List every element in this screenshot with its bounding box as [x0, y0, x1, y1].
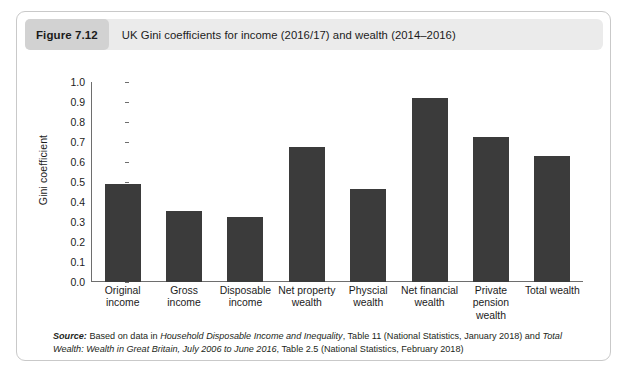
bar-slot	[399, 82, 460, 282]
plot-area	[92, 82, 583, 282]
bar-chart: Gini coefficient 0.00.10.20.30.40.50.60.…	[17, 64, 610, 329]
figure-number-badge: Figure 7.12	[25, 19, 109, 50]
source-italic1: Household Disposable Income and Inequali…	[160, 331, 343, 341]
bar-slot	[92, 82, 153, 282]
figure-header: Figure 7.12 UK Gini coefficients for inc…	[25, 19, 603, 50]
y-tick-label: 0.5	[70, 176, 85, 188]
bar[interactable]	[289, 147, 325, 282]
source-part3: , Table 2.5 (National Statistics, Februa…	[277, 344, 464, 354]
figure-card: Figure 7.12 UK Gini coefficients for inc…	[16, 11, 611, 361]
y-tick-label: 0.3	[70, 216, 85, 228]
x-tick-label: Total wealth	[516, 285, 589, 297]
bar[interactable]	[412, 98, 448, 282]
bar-slot	[460, 82, 521, 282]
bar[interactable]	[105, 184, 141, 282]
y-tick-label: 0.4	[70, 196, 85, 208]
bar[interactable]	[166, 211, 202, 282]
x-axis-tick-labels: OriginalincomeGrossincomeDisposableincom…	[92, 285, 583, 329]
source-part1: Based on data in	[87, 331, 160, 341]
bar[interactable]	[350, 189, 386, 282]
y-tick-label: 1.0	[70, 76, 85, 88]
y-tick-label: 0.8	[70, 116, 85, 128]
y-tick-label: 0.1	[70, 256, 85, 268]
y-tick-label: 0.2	[70, 236, 85, 248]
bar-slot	[276, 82, 337, 282]
bar-slot	[153, 82, 214, 282]
y-tick-label: 0.7	[70, 136, 85, 148]
bar[interactable]	[227, 217, 263, 282]
source-part2: , Table 11 (National Statistics, January…	[343, 331, 543, 341]
source-label: Source:	[53, 331, 87, 341]
y-axis-title: Gini coefficient	[37, 100, 49, 240]
bar[interactable]	[534, 156, 570, 282]
y-axis-tick-labels: 0.00.10.20.30.40.50.60.70.80.91.0	[55, 82, 85, 282]
source-note: Source: Based on data in Household Dispo…	[53, 330, 593, 355]
bar-slot	[338, 82, 399, 282]
bar[interactable]	[473, 137, 509, 282]
figure-title: UK Gini coefficients for income (2016/17…	[109, 29, 456, 41]
bar-slot	[522, 82, 583, 282]
y-tick-label: 0.9	[70, 96, 85, 108]
y-tick-label: 0.6	[70, 156, 85, 168]
bar-slot	[215, 82, 276, 282]
y-tick-label: 0.0	[70, 276, 85, 288]
